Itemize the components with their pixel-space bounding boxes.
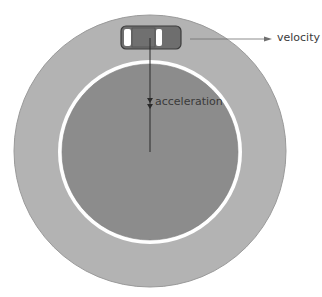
velocity-label: velocity	[277, 31, 320, 44]
diagram-canvas	[0, 0, 322, 297]
car-windshield	[156, 29, 162, 46]
acceleration-label: acceleration	[155, 95, 223, 108]
car-roof	[132, 28, 155, 47]
car-rear-window	[124, 29, 131, 46]
car	[121, 26, 181, 49]
